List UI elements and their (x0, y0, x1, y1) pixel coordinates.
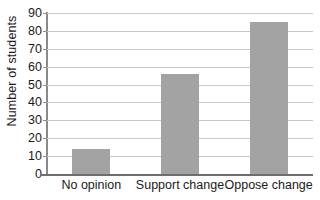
bar-chart: Number of students 0102030405060708090 N… (0, 0, 320, 200)
y-axis-tick (43, 120, 47, 121)
bar (161, 74, 199, 174)
y-axis-tick-label: 10 (16, 150, 42, 162)
x-axis-category-labels: No opinionSupport changeOppose change (47, 177, 313, 197)
y-axis-tick (43, 156, 47, 157)
y-axis-tick (43, 31, 47, 32)
category-label: Oppose change (224, 177, 313, 194)
bar (250, 22, 288, 174)
category-label: Support change (136, 177, 225, 194)
y-axis-tick (43, 102, 47, 103)
x-axis-line (40, 174, 313, 176)
y-axis-tick-label: 30 (16, 114, 42, 126)
y-axis-tick (43, 67, 47, 68)
y-axis-tick (43, 13, 47, 14)
y-axis-tick-label: 70 (16, 43, 42, 55)
y-axis-tick-label: 20 (16, 132, 42, 144)
gridline (47, 13, 313, 14)
cropped-chart-title (0, 0, 320, 1)
category-label: No opinion (47, 177, 136, 194)
y-axis-tick-label: 50 (16, 79, 42, 91)
y-axis-tick-label: 80 (16, 25, 42, 37)
y-axis-tick (43, 138, 47, 139)
y-axis-tick-label: 90 (16, 7, 42, 19)
plot-area (47, 13, 313, 174)
y-axis-tick-labels: 0102030405060708090 (14, 0, 42, 200)
y-axis-tick-label: 0 (16, 168, 42, 180)
y-axis-tick (43, 49, 47, 50)
y-axis-tick (43, 85, 47, 86)
bar (72, 149, 110, 174)
y-axis-tick-label: 40 (16, 96, 42, 108)
y-axis-tick-label: 60 (16, 61, 42, 73)
